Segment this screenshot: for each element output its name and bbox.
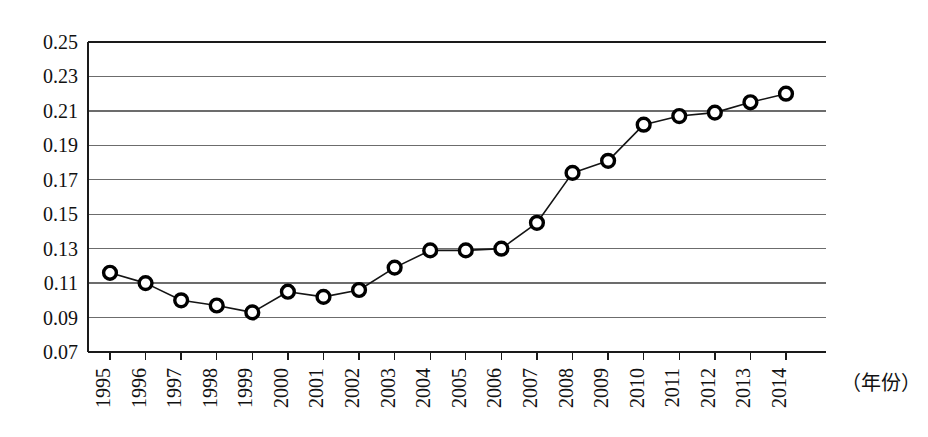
x-tick-label: 2003	[377, 368, 399, 408]
data-point-marker	[210, 299, 223, 312]
data-point-marker	[780, 87, 793, 100]
y-tick-label: 0.23	[43, 65, 78, 87]
x-tick-label: 2010	[626, 368, 648, 408]
x-tick-label: 2000	[270, 368, 292, 408]
x-tick-label: 2013	[732, 368, 754, 408]
y-tick-label: 0.19	[43, 134, 78, 156]
y-tick-label: 0.15	[43, 203, 78, 225]
x-tick-label: 1996	[128, 368, 150, 408]
data-point-marker	[708, 106, 721, 119]
y-tick-label: 0.17	[43, 169, 78, 191]
x-tick-label: 2008	[555, 368, 577, 408]
y-tick-label: 0.25	[43, 31, 78, 53]
data-point-marker	[744, 96, 757, 109]
data-point-marker	[602, 154, 615, 167]
line-chart: 0.070.090.110.130.150.170.190.210.230.25…	[0, 0, 928, 437]
x-tick-label: 1999	[234, 368, 256, 408]
x-tick-label: 2005	[448, 368, 470, 408]
data-point-marker	[388, 261, 401, 274]
data-point-marker	[673, 110, 686, 123]
y-tick-label: 0.13	[43, 238, 78, 260]
data-point-marker	[424, 244, 437, 257]
x-tick-label: 2011	[661, 368, 683, 407]
x-tick-label: 2007	[519, 368, 541, 408]
data-point-marker	[566, 166, 579, 179]
data-point-marker	[104, 266, 117, 279]
data-point-marker	[246, 306, 259, 319]
data-point-marker	[281, 285, 294, 298]
x-tick-label: 2009	[590, 368, 612, 408]
x-tick-label: 1997	[163, 368, 185, 408]
data-point-marker	[353, 284, 366, 297]
x-tick-label: 1998	[199, 368, 221, 408]
x-tick-label: 2004	[412, 368, 434, 408]
data-point-marker	[317, 290, 330, 303]
data-point-marker	[139, 277, 152, 290]
x-tick-label: 1995	[92, 368, 114, 408]
y-tick-label: 0.11	[44, 272, 78, 294]
data-point-marker	[637, 118, 650, 131]
y-tick-label: 0.09	[43, 307, 78, 329]
x-axis-caption: （年份）	[841, 372, 921, 394]
x-tick-label: 2014	[768, 368, 790, 408]
x-tick-label: 2002	[341, 368, 363, 408]
y-tick-label: 0.21	[43, 100, 78, 122]
data-point-marker	[495, 242, 508, 255]
data-point-marker	[175, 294, 188, 307]
data-point-marker	[459, 244, 472, 257]
x-tick-label: 2001	[305, 368, 327, 408]
data-point-marker	[531, 216, 544, 229]
x-tick-label: 2006	[483, 368, 505, 408]
chart-figure: 0.070.090.110.130.150.170.190.210.230.25…	[0, 0, 928, 437]
x-tick-label: 2012	[697, 368, 719, 408]
y-tick-label: 0.07	[43, 341, 78, 363]
